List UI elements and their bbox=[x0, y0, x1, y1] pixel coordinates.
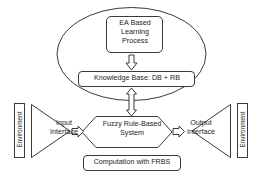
environment-left-bar bbox=[15, 104, 25, 158]
diagram-svg bbox=[0, 0, 262, 184]
fuzzy-rule-based-system-hexagon bbox=[82, 117, 172, 148]
arrow-ea-to-knowledge-base bbox=[126, 55, 137, 70]
knowledge-base-box bbox=[79, 72, 195, 87]
ea-based-learning-process-box bbox=[107, 17, 163, 53]
input-interface-triangle bbox=[32, 105, 71, 158]
arrow-knowledge-base-to-frbs bbox=[127, 88, 137, 116]
arrow-frbs-to-output bbox=[173, 126, 185, 137]
diagram-canvas: EA Based Learning Process Knowledge Base… bbox=[0, 0, 262, 184]
computation-with-frbs-box bbox=[84, 156, 181, 171]
output-interface-triangle bbox=[192, 105, 231, 158]
environment-right-bar bbox=[238, 104, 248, 158]
arrow-input-to-frbs bbox=[72, 126, 84, 137]
